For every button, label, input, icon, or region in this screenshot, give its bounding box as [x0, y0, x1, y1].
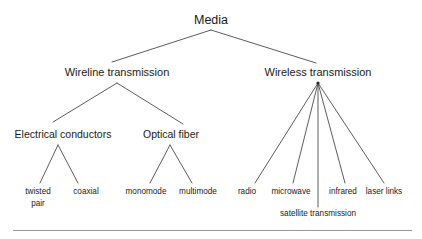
node-multimode: multimode [179, 187, 217, 196]
edge-wireless-to-laser-links [318, 83, 384, 183]
edge-wireline-to-electrical [53, 83, 117, 122]
edge-wireless-to-microwave [293, 83, 318, 183]
node-electrical-conductors: Electrical conductors [15, 128, 112, 140]
edge-electrical-to-twisted-pair [40, 145, 58, 183]
node-laser-links: laser links [366, 187, 402, 196]
node-optical-fiber: Optical fiber [143, 128, 199, 140]
node-wireline-transmission: Wireline transmission [65, 66, 170, 79]
node-media: Media [194, 13, 228, 27]
media-tree-diagram: Media Wireline transmission Wireless tra… [0, 0, 422, 239]
edge-wireless-to-radio [255, 83, 318, 183]
node-monomode: monomode [126, 187, 167, 196]
edge-optical-to-multimode [170, 145, 192, 183]
wireless-fan-origin-dot [316, 81, 319, 84]
node-infrared: infrared [329, 187, 357, 196]
edge-optical-to-monomode [150, 145, 170, 183]
diagram-edges-layer [0, 0, 422, 239]
node-wireless-transmission: Wireless transmission [265, 66, 372, 79]
footer-divider-rule [13, 230, 412, 231]
node-twisted: twisted [25, 187, 50, 196]
edge-wireline-to-optical [117, 83, 183, 124]
node-microwave: microwave [271, 187, 310, 196]
edge-media-to-wireline [112, 30, 211, 62]
node-coaxial: coaxial [73, 187, 99, 196]
node-radio: radio [238, 187, 256, 196]
edge-media-to-wireless [211, 30, 316, 63]
node-pair: pair [31, 199, 45, 208]
edge-wireless-to-infrared [318, 83, 345, 183]
node-satellite-transmission: satellite transmission [280, 209, 356, 218]
edge-electrical-to-coaxial [58, 145, 78, 183]
